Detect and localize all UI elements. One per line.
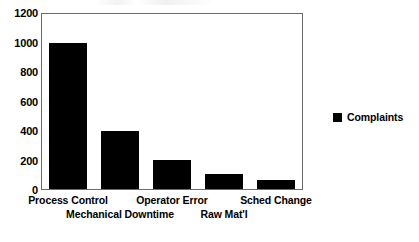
chart-legend: Complaints (333, 112, 403, 123)
scan-artifact (96, 0, 216, 5)
bars-layer (42, 14, 302, 189)
y-axis-tick-label: 600 (0, 96, 38, 107)
y-axis-tick-label: 1200 (0, 8, 38, 19)
y-axis-tick-label: 1000 (0, 37, 38, 48)
legend-label-complaints: Complaints (347, 112, 403, 123)
y-axis: 020040060080010001200 (0, 13, 38, 190)
y-axis-tick-label: 400 (0, 126, 38, 137)
bar (101, 131, 138, 189)
x-axis-labels: Process ControlMechanical DowntimeOperat… (0, 192, 419, 232)
legend-swatch-complaints (333, 113, 342, 122)
x-axis-category-label: Process Control (28, 195, 108, 206)
y-axis-tick-label: 200 (0, 155, 38, 166)
bar-chart: 020040060080010001200 Process ControlMec… (0, 0, 419, 242)
bar (153, 160, 190, 189)
x-axis-category-label: Raw Mat'l (200, 209, 247, 220)
x-axis-category-label: Operator Error (136, 195, 208, 206)
bar (257, 180, 294, 189)
x-axis-category-label: Sched Change (240, 195, 312, 206)
y-axis-tick-label: 800 (0, 67, 38, 78)
x-axis-category-label: Mechanical Downtime (66, 209, 174, 220)
bar (205, 174, 242, 189)
bar (49, 43, 86, 189)
plot-area (41, 13, 303, 190)
